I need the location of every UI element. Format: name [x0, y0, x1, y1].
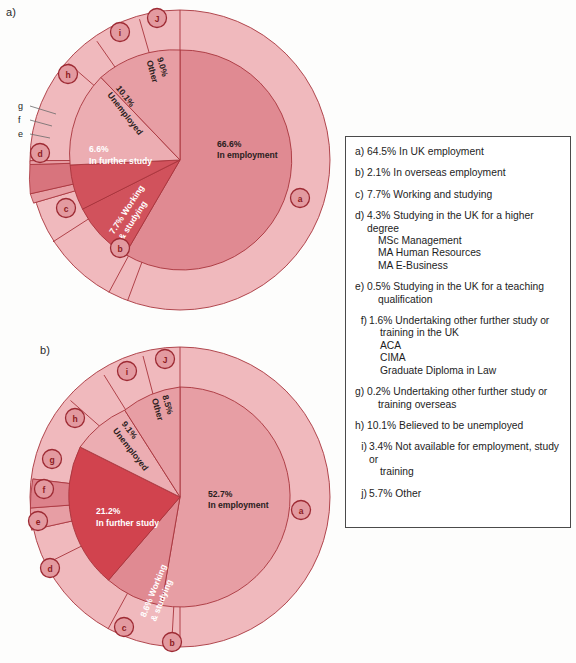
marker-b-f-text: f — [43, 485, 46, 495]
legend-text-c: 7.7% Working and studying — [367, 189, 492, 200]
marker-a-j[interactable]: J — [148, 9, 167, 28]
legend-sub-d-1: MA Human Resources — [367, 247, 562, 259]
legend-sub-d-0: MSc Management — [367, 235, 562, 247]
legend-item-c: c) 7.7% Working and studying — [355, 189, 562, 201]
marker-a-d-text: d — [37, 149, 42, 159]
legend-sub-f-3: Graduate Diploma in Law — [369, 365, 562, 377]
pie-chart-a-svg: 66.6% In employment 7.7% Working & study… — [0, 0, 340, 320]
marker-b-h-text: h — [72, 414, 77, 424]
legend-item-h: h) 10.1% Believed to be unemployed — [355, 420, 562, 432]
marker-b-d-text: d — [47, 564, 52, 574]
pie-chart-b-svg: 52.7% In employment 8.6% Working & study… — [0, 330, 340, 663]
marker-a-j-text: J — [155, 14, 160, 24]
marker-b-b-text: b — [169, 638, 174, 648]
legend-item-i: i) 3.4% Not available for employment, st… — [355, 441, 562, 478]
pie-b-label-study-pct: 21.2% — [96, 506, 121, 516]
marker-a-a[interactable]: a — [291, 189, 310, 208]
marker-b-a[interactable]: a — [292, 501, 311, 520]
marker-b-a-text: a — [299, 506, 304, 516]
legend-item-j: j) 5.7% Other — [355, 488, 562, 500]
legend-sub-d-2: MA E-Business — [367, 260, 562, 272]
marker-a-d[interactable]: d — [31, 144, 50, 163]
pie-chart-b: 52.7% In employment 8.6% Working & study… — [0, 330, 340, 663]
legend-text-j: 5.7% Other — [369, 488, 421, 499]
marker-a-h[interactable]: h — [59, 65, 78, 84]
marker-a-h-text: h — [65, 70, 70, 80]
legend-text-a: 64.5% In UK employment — [367, 146, 484, 157]
legend-panel: a) 64.5% In UK employment b) 2.1% In ove… — [345, 136, 571, 528]
legend-sub-g-0: training overseas — [367, 399, 562, 411]
marker-b-j-text: J — [163, 355, 168, 365]
leader-label-e: e — [18, 129, 23, 139]
marker-b-i[interactable]: i — [118, 362, 137, 381]
marker-b-b[interactable]: b — [163, 633, 182, 652]
marker-a-i-text: i — [119, 28, 121, 38]
legend-key-j: j) — [355, 488, 367, 500]
legend-key-e: e) — [355, 281, 367, 306]
legend-text-g: 0.2% Undertaking other further study or — [367, 386, 547, 397]
pie-a-label-employment-desc: In employment — [217, 150, 278, 160]
legend-text-i: 3.4% Not available for employment, study… — [369, 441, 559, 464]
legend-item-e: e) 0.5% Studying in the UK for a teachin… — [355, 281, 562, 306]
marker-b-e-text: e — [36, 517, 41, 527]
legend-sub-f-2: CIMA — [369, 352, 562, 364]
legend-item-g: g) 0.2% Undertaking other further study … — [355, 386, 562, 411]
legend-text-b: 2.1% In overseas employment — [367, 167, 506, 178]
marker-b-e[interactable]: e — [29, 512, 48, 531]
marker-a-b-text: b — [117, 244, 122, 254]
legend-sub-f-1: ACA — [369, 340, 562, 352]
marker-a-i[interactable]: i — [111, 23, 130, 42]
legend-sub-f-0: training in the UK — [369, 327, 562, 339]
legend-key-d: d) — [355, 210, 367, 272]
marker-a-b[interactable]: b — [111, 239, 130, 258]
marker-b-h[interactable]: h — [66, 409, 85, 428]
marker-b-c[interactable]: c — [115, 618, 134, 637]
legend-sub-i-0: training — [369, 466, 562, 478]
pie-a-label-study-pct: 6.6% — [89, 144, 109, 154]
marker-b-g-text: g — [49, 455, 54, 465]
marker-a-a-text: a — [298, 194, 303, 204]
pie-b-label-employment-pct: 52.7% — [208, 489, 233, 499]
legend-item-f: f) 1.6% Undertaking other further study … — [355, 315, 562, 377]
legend-text-e: 0.5% Studying in the UK for a teaching — [367, 281, 544, 292]
legend-item-b: b) 2.1% In overseas employment — [355, 167, 562, 179]
leader-label-g: g — [18, 101, 23, 111]
pie-chart-a: 66.6% In employment 7.7% Working & study… — [0, 0, 340, 320]
marker-b-d[interactable]: d — [41, 559, 60, 578]
legend-item-d: d) 4.3% Studying in the UK for a higher … — [355, 210, 562, 272]
marker-b-g[interactable]: g — [43, 450, 62, 469]
pie-b-label-employment-desc: In employment — [208, 500, 269, 510]
marker-b-j[interactable]: J — [156, 350, 175, 369]
legend-text-d: 4.3% Studying in the UK for a higher deg… — [367, 210, 534, 233]
legend-key-f: f) — [355, 315, 367, 377]
marker-b-f[interactable]: f — [35, 480, 54, 499]
legend-text-f: 1.6% Undertaking other further study or — [369, 315, 549, 326]
pie-a-label-employment-pct: 66.6% — [217, 139, 242, 149]
legend-key-h: h) — [355, 420, 367, 432]
legend-item-a: a) 64.5% In UK employment — [355, 146, 562, 158]
legend-key-b: b) — [355, 167, 367, 179]
legend-key-a: a) — [355, 146, 367, 158]
marker-a-c[interactable]: c — [57, 199, 76, 218]
marker-b-c-text: c — [122, 623, 127, 633]
legend-text-h: 10.1% Believed to be unemployed — [367, 420, 523, 431]
pie-b-label-study-desc: In further study — [96, 518, 159, 528]
legend-key-i: i) — [355, 441, 367, 478]
legend-sub-e-0: qualification — [367, 294, 562, 306]
pie-a-label-study-desc: In further study — [89, 156, 152, 166]
marker-b-i-text: i — [126, 367, 128, 377]
leader-label-f: f — [18, 115, 21, 125]
legend-key-g: g) — [355, 386, 367, 411]
legend-key-c: c) — [355, 189, 367, 201]
marker-a-c-text: c — [64, 204, 69, 214]
